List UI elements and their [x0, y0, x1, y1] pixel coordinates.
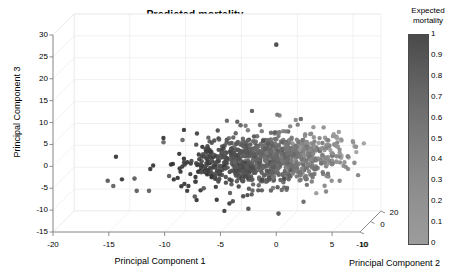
colorbar-tick-label: 0.4: [431, 155, 442, 163]
z-tick-label: 20: [386, 209, 402, 217]
scatter-point: [330, 162, 335, 167]
scatter-point: [263, 147, 268, 152]
colorbar-tick-label: 0.6: [431, 114, 442, 122]
colorbar-tick-label: 0.1: [431, 218, 442, 226]
z-tick-label: 0: [376, 221, 390, 229]
colorbar-tick-label: 0.3: [431, 176, 442, 184]
x-tick-label: 0: [261, 241, 291, 249]
scatter-point: [285, 151, 290, 156]
x-tick-label: -5: [205, 241, 235, 249]
x-tick-label: 5: [317, 241, 347, 249]
scatter-point: [218, 155, 223, 160]
scatter-canvas: [0, 0, 400, 260]
scatter-point: [276, 211, 281, 216]
scatter-point: [246, 207, 251, 212]
scatter-point: [134, 189, 139, 194]
x-axis-title: Principal Component 1: [80, 256, 240, 266]
scatter-point: [192, 194, 197, 199]
y-tick-label: -15: [15, 228, 48, 236]
scatter-point: [345, 154, 350, 159]
scatter-point: [201, 186, 206, 191]
colorbar-title-line2: mortality: [413, 16, 443, 25]
scatter-point: [352, 161, 357, 166]
y-tick-label: 30: [15, 31, 48, 39]
plot-axes-3d: 302520151050-5-10-15-20-15-10-505-101002…: [0, 0, 400, 260]
colorbar: Expected mortality 10.90.80.70.60.50.40.…: [404, 6, 459, 256]
x-tick-label: -15: [94, 241, 124, 249]
scatter-point: [299, 117, 304, 122]
scatter-point: [238, 123, 243, 128]
colorbar-tick-label: 0.5: [431, 135, 442, 143]
z-tick-label: 10: [353, 241, 375, 249]
colorbar-tick-label: 0.2: [431, 197, 442, 205]
colorbar-title: Expected mortality: [402, 6, 454, 25]
y-tick-label: -10: [15, 206, 48, 214]
scatter-point: [313, 157, 318, 162]
colorbar-tick-label: 0.9: [431, 51, 442, 59]
scatter-point: [111, 184, 116, 189]
colorbar-tick-label: 1: [431, 30, 435, 38]
scatter-point: [132, 176, 137, 181]
colorbar-title-line1: Expected: [411, 6, 444, 15]
colorbar-tick-label: 0: [431, 239, 435, 247]
x-tick-label: -10: [150, 241, 180, 249]
scatter-point: [229, 168, 234, 173]
scatter-point: [274, 42, 279, 47]
scatter-point: [180, 138, 185, 143]
z-axis-title: Principal Component 2: [330, 258, 459, 268]
scatter-point: [161, 140, 166, 145]
colorbar-tick-label: 0.7: [431, 93, 442, 101]
scatter-point: [167, 174, 172, 179]
y-axis-title: Principal Component 3: [12, 52, 22, 172]
x-tick-label: -20: [38, 241, 68, 249]
colorbar-tick-label: 0.8: [431, 72, 442, 80]
y-tick-label: -5: [15, 184, 48, 192]
scatter-point: [147, 189, 152, 194]
colorbar-gradient: [408, 34, 429, 245]
scatter-point: [105, 178, 110, 183]
figure-root: Predicted mortality 302520151050-5-10-15…: [0, 0, 459, 277]
